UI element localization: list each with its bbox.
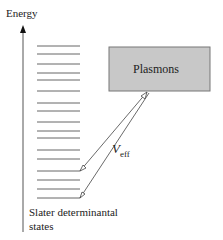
diagram-canvas [0, 0, 223, 240]
states-label-line2: states [29, 220, 53, 232]
energy-levels [37, 46, 80, 198]
axis-arrowhead-icon [20, 25, 26, 33]
veff-label: Veff [112, 141, 130, 157]
states-label-line1: Slater determinantal [29, 206, 118, 218]
plasmons-label: Plasmons [133, 62, 179, 77]
energy-axis [20, 25, 26, 232]
energy-axis-label: Energy [6, 7, 38, 19]
